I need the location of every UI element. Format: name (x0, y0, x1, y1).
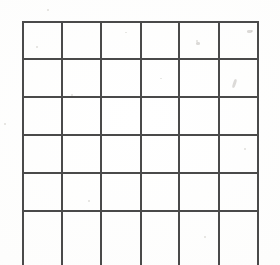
grid-cell-r5-c0[interactable] (24, 212, 61, 265)
grid-cell-r3-c2[interactable] (102, 136, 140, 172)
grid-cell-r5-c1[interactable] (63, 212, 100, 265)
grid-cell-r3-c3[interactable] (142, 136, 178, 172)
grid-cell-r0-c2[interactable] (102, 23, 140, 58)
grid-cell-r4-c0[interactable] (24, 174, 61, 210)
grid-cell-r0-c1[interactable] (63, 23, 100, 58)
grid-cell-r1-c5[interactable] (220, 60, 257, 96)
grid-cell-r2-c3[interactable] (142, 98, 178, 134)
grid-cell-r0-c4[interactable] (180, 23, 218, 58)
grid-cell-r3-c4[interactable] (180, 136, 218, 172)
grid-cell-r1-c2[interactable] (102, 60, 140, 96)
grid-cell-r0-c0[interactable] (24, 23, 61, 58)
grid-cell-r5-c3[interactable] (142, 212, 178, 265)
grid-cell-r5-c2[interactable] (102, 212, 140, 265)
grid-column-line-6 (257, 21, 259, 265)
grid-cell-r1-c3[interactable] (142, 60, 178, 96)
grid-cell-r3-c0[interactable] (24, 136, 61, 172)
grid-cell-r0-c3[interactable] (142, 23, 178, 58)
grid-cell-r4-c3[interactable] (142, 174, 178, 210)
grid-cell-r3-c5[interactable] (220, 136, 257, 172)
grid-cell-r1-c0[interactable] (24, 60, 61, 96)
grid-cell-r4-c5[interactable] (220, 174, 257, 210)
grid-cell-r0-c5[interactable] (220, 23, 257, 58)
grid-cell-r3-c1[interactable] (63, 136, 100, 172)
grid-cell-r2-c1[interactable] (63, 98, 100, 134)
grid-cell-r4-c1[interactable] (63, 174, 100, 210)
grid-cell-r5-c4[interactable] (180, 212, 218, 265)
grid (0, 0, 280, 265)
grid-cell-r5-c5[interactable] (220, 212, 257, 265)
grid-cell-r4-c2[interactable] (102, 174, 140, 210)
grid-cell-r2-c4[interactable] (180, 98, 218, 134)
grid-cell-r1-c1[interactable] (63, 60, 100, 96)
grid-cell-r2-c2[interactable] (102, 98, 140, 134)
grid-cell-r2-c0[interactable] (24, 98, 61, 134)
grid-cell-r2-c5[interactable] (220, 98, 257, 134)
grid-cell-r1-c4[interactable] (180, 60, 218, 96)
grid-cell-r4-c4[interactable] (180, 174, 218, 210)
worksheet-page (0, 0, 280, 265)
